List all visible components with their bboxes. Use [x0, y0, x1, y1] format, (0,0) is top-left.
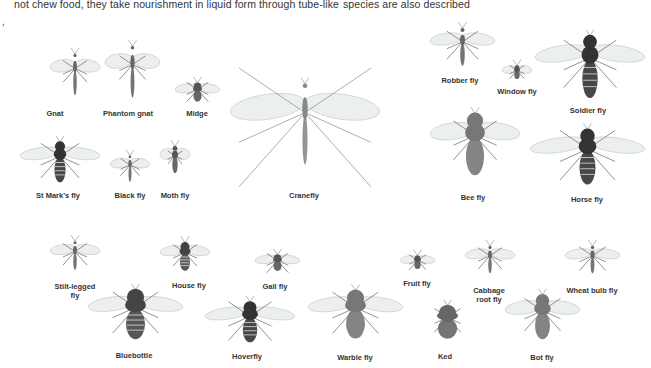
stilt-legged-fly-icon	[50, 235, 100, 277]
st-marks-fly-icon	[20, 135, 100, 190]
stray-punctuation: ,	[2, 16, 5, 27]
soldier-fly-illustration	[535, 25, 645, 110]
gall-fly-icon	[255, 248, 300, 278]
body-text-left-column: not chew food, they take nourishment in …	[14, 0, 339, 10]
midge-label: Midge	[186, 109, 208, 118]
cabbage-root-fly-label: Cabbage root fly	[473, 286, 505, 304]
bluebottle-illustration	[88, 280, 183, 350]
gnat-illustration	[50, 45, 100, 105]
bot-fly-label: Bot fly	[530, 353, 553, 362]
phantom-gnat-illustration	[105, 35, 160, 110]
ked-illustration	[420, 300, 475, 345]
st-marks-fly-label: St Mark's fly	[36, 191, 80, 200]
moth-fly-label: Moth fly	[161, 191, 190, 200]
gnat-label: Gnat	[46, 109, 63, 118]
warble-fly-illustration	[308, 280, 403, 350]
ked-label: Ked	[438, 352, 452, 361]
robber-fly-label: Robber fly	[441, 76, 478, 85]
warble-fly-label: Warble fly	[337, 353, 373, 362]
wheat-bulb-fly-illustration	[565, 240, 620, 280]
fruit-fly-icon	[400, 250, 435, 275]
cranefly-label: Cranefly	[289, 191, 319, 200]
robber-fly-icon	[430, 20, 495, 75]
hoverfly-illustration	[205, 295, 295, 350]
cabbage-root-fly-illustration	[465, 240, 515, 280]
soldier-fly-icon	[535, 25, 645, 110]
black-fly-icon	[110, 150, 150, 188]
house-fly-illustration	[160, 237, 210, 277]
hoverfly-label: Hoverfly	[232, 352, 262, 361]
bluebottle-icon	[88, 280, 183, 350]
black-fly-label: Black fly	[115, 191, 146, 200]
cranefly-icon	[230, 50, 380, 200]
bee-fly-illustration	[430, 100, 520, 190]
window-fly-illustration	[502, 60, 532, 85]
window-fly-label: Window fly	[497, 87, 537, 96]
warble-fly-icon	[308, 280, 403, 350]
st-marks-fly-illustration	[20, 135, 100, 190]
gall-fly-illustration	[255, 248, 300, 278]
midge-illustration	[175, 75, 220, 110]
moth-fly-icon	[160, 135, 190, 185]
horse-fly-label: Horse fly	[571, 195, 603, 204]
house-fly-icon	[160, 237, 210, 277]
soldier-fly-label: Soldier fly	[570, 106, 606, 115]
bee-fly-icon	[430, 100, 520, 190]
cranefly-illustration	[230, 50, 380, 200]
bee-fly-label: Bee fly	[461, 193, 486, 202]
phantom-gnat-icon	[105, 35, 160, 110]
body-text-right-column: species are also described	[343, 0, 470, 10]
fruit-fly-illustration	[400, 250, 435, 275]
phantom-gnat-label: Phantom gnat	[103, 109, 153, 118]
cabbage-root-fly-icon	[465, 240, 515, 280]
horse-fly-illustration	[530, 120, 645, 195]
robber-fly-illustration	[430, 20, 495, 75]
wheat-bulb-fly-icon	[565, 240, 620, 280]
bluebottle-label: Bluebottle	[116, 351, 153, 360]
gall-fly-label: Gall fly	[262, 282, 287, 291]
hoverfly-icon	[205, 295, 295, 350]
moth-fly-illustration	[160, 135, 190, 185]
black-fly-illustration	[110, 150, 150, 188]
window-fly-icon	[502, 60, 532, 85]
horse-fly-icon	[530, 120, 645, 195]
midge-icon	[175, 75, 220, 110]
ked-icon	[420, 300, 475, 345]
fruit-fly-label: Fruit fly	[403, 279, 431, 288]
wheat-bulb-fly-label: Wheat bulb fly	[566, 286, 617, 295]
stilt-legged-fly-illustration	[50, 235, 100, 277]
gnat-icon	[50, 45, 100, 105]
